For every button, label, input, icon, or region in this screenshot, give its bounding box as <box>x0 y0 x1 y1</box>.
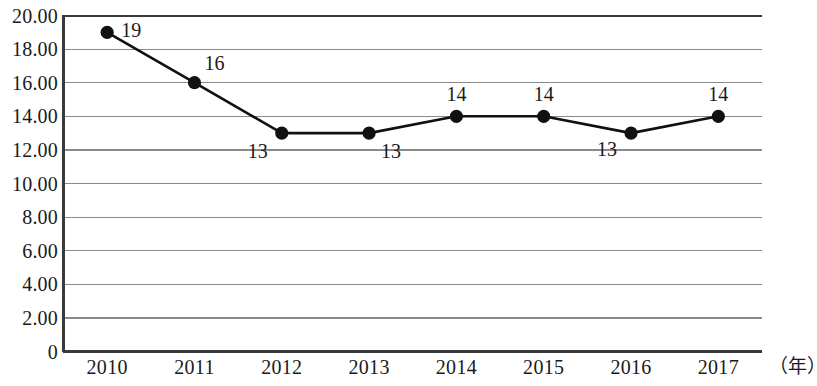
x-tick-label: 2015 <box>523 356 564 378</box>
x-tick-label: 2016 <box>610 356 651 378</box>
line-chart: 20.0018.0016.0014.0012.0010.008.006.004.… <box>0 0 817 386</box>
data-point-marker <box>275 127 288 140</box>
data-point-label: 16 <box>204 53 224 73</box>
y-tick-label: 18.00 <box>12 39 58 59</box>
data-point-marker <box>712 110 725 123</box>
x-tick-label: 2017 <box>698 356 739 378</box>
y-tick-label: 14.00 <box>12 106 58 126</box>
x-tick-label: 2011 <box>174 356 214 378</box>
data-point-label: 19 <box>121 20 141 40</box>
data-point-label: 14 <box>534 84 554 104</box>
y-tick-label: 12.00 <box>12 140 58 160</box>
y-tick-label: 4.00 <box>22 274 58 294</box>
y-tick-label: 16.00 <box>12 73 58 93</box>
y-tick-label: 2.00 <box>22 308 58 328</box>
y-tick-label: 10.00 <box>12 174 58 194</box>
data-point-label: 13 <box>597 139 617 159</box>
data-point-marker <box>362 127 375 140</box>
y-tick-label: 6.00 <box>22 241 58 261</box>
data-point-label: 13 <box>248 141 268 161</box>
y-tick-label: 8.00 <box>22 207 58 227</box>
x-tick-label: 2014 <box>436 356 477 378</box>
x-tick-label: 2013 <box>348 356 389 378</box>
data-point-marker <box>450 110 463 123</box>
chart-canvas <box>0 0 817 386</box>
x-tick-label: 2010 <box>87 356 128 378</box>
y-tick-label: 20.00 <box>12 6 58 26</box>
data-point-label: 13 <box>381 141 401 161</box>
y-tick-label: 0 <box>48 342 58 362</box>
x-axis-unit-label: （年） <box>769 356 817 378</box>
data-point-marker <box>101 26 114 39</box>
data-point-marker <box>624 127 637 140</box>
data-point-label: 14 <box>446 84 466 104</box>
gridline-group <box>64 16 763 318</box>
data-point-marker <box>188 76 201 89</box>
data-point-label: 14 <box>708 84 728 104</box>
x-tick-label: 2012 <box>261 356 302 378</box>
data-point-marker <box>537 110 550 123</box>
